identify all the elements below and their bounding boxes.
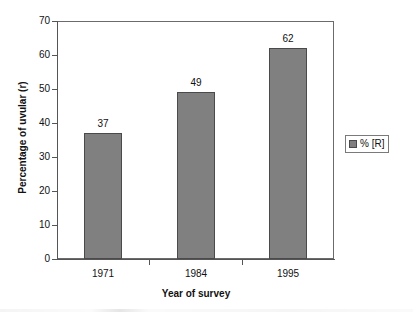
bar-value-label: 62 <box>266 33 310 44</box>
bar-value-label: 49 <box>174 77 218 88</box>
y-axis-tick <box>52 259 57 260</box>
bar <box>269 48 307 259</box>
scan-artifact <box>0 309 413 312</box>
x-axis-title: Year of survey <box>57 288 335 299</box>
x-axis-tick <box>242 260 243 265</box>
legend-label: % [R] <box>360 139 384 149</box>
y-axis-tick <box>52 225 57 226</box>
y-axis-tick-labels: 010203040506070 <box>5 0 50 315</box>
x-axis-line <box>57 259 335 260</box>
bar-value-label: 37 <box>81 118 125 129</box>
x-axis-tick-label: 1995 <box>258 268 318 279</box>
bar-chart-figure: 010203040506070 197119841995 374962 Perc… <box>0 0 413 315</box>
y-axis-tick <box>52 21 57 22</box>
bar <box>177 92 215 259</box>
legend-swatch-icon <box>349 140 357 148</box>
y-axis-tick-label: 70 <box>10 16 50 26</box>
bar <box>84 133 122 259</box>
y-axis-tick <box>52 123 57 124</box>
y-axis-tick-label: 0 <box>10 254 50 264</box>
y-axis-tick <box>52 55 57 56</box>
y-axis-line <box>57 21 58 260</box>
chart-legend: % [R] <box>345 135 389 153</box>
x-axis-tick-label: 1971 <box>73 268 133 279</box>
x-axis-tick-label: 1984 <box>166 268 226 279</box>
x-axis-tick <box>149 260 150 265</box>
y-axis-title: Percentage of uvular (r) <box>17 43 28 233</box>
y-axis-tick <box>52 157 57 158</box>
y-axis-tick <box>52 89 57 90</box>
y-axis-tick <box>52 191 57 192</box>
